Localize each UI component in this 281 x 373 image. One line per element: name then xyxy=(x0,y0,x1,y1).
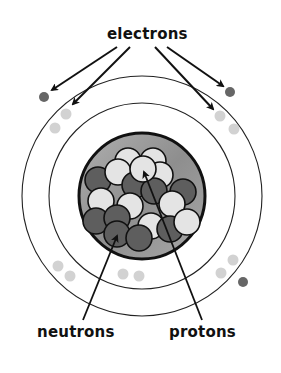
electron-dark xyxy=(225,87,235,97)
atom-diagram: electrons neutrons protons xyxy=(0,0,281,373)
electrons-label: electrons xyxy=(107,25,188,43)
electron-light xyxy=(216,268,227,279)
electron-light xyxy=(50,123,61,134)
nucleus xyxy=(79,133,205,259)
neutrons-label: neutrons xyxy=(37,323,115,341)
neutron-pointer-line xyxy=(83,236,117,320)
electron-light xyxy=(61,109,72,120)
electron-light xyxy=(228,255,239,266)
proton xyxy=(174,209,200,235)
neutron xyxy=(126,225,152,251)
electron-dark xyxy=(238,277,248,287)
electron-dark xyxy=(39,92,49,102)
protons-label: protons xyxy=(169,323,236,341)
proton xyxy=(130,156,156,182)
electron-arrows xyxy=(52,47,223,109)
electron-light xyxy=(215,111,226,122)
arrow-electron-outer-right xyxy=(167,47,223,86)
electron-light xyxy=(118,269,129,280)
electron-light xyxy=(229,124,240,135)
electron-light xyxy=(65,271,76,282)
electron-light xyxy=(53,261,64,272)
arrow-electron-inner-left xyxy=(73,47,130,104)
electron-light xyxy=(134,271,145,282)
